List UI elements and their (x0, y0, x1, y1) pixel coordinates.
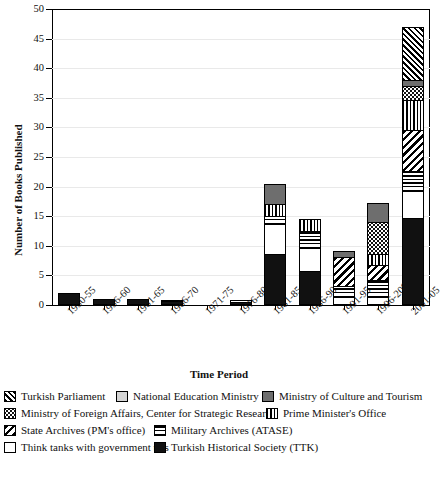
y-tick-label: 30 (18, 122, 44, 132)
y-tick-label: 5 (18, 270, 44, 280)
legend-label: Prime Minister's Office (283, 407, 386, 419)
bar-segment (403, 131, 423, 172)
legend-label: National Education Ministry (133, 390, 259, 402)
y-tick-label: 45 (18, 34, 44, 44)
bar-segment (265, 217, 285, 226)
legend-item[interactable]: Prime Minister's Office (266, 407, 386, 419)
legend-item[interactable]: Turkish Historical Society (TTK) (154, 441, 318, 453)
bar-segment (300, 232, 320, 249)
legend-swatch-icon (262, 391, 274, 402)
legend-item[interactable]: Think tanks with government ties (4, 441, 169, 453)
y-tick-label: 35 (18, 93, 44, 103)
bar-segment (368, 204, 388, 223)
bar-segment (403, 101, 423, 130)
bar-segment (300, 249, 320, 272)
legend-swatch-icon (266, 408, 278, 419)
legend-label: Ministry of Culture and Tourism (279, 390, 422, 402)
legend-swatch-icon (4, 391, 16, 402)
y-tick-label: 20 (18, 182, 44, 192)
y-tick-mark (46, 305, 52, 306)
legend-swatch-icon (154, 425, 166, 436)
bar-segment (368, 266, 388, 281)
legend-swatch-icon (116, 391, 128, 402)
legend-swatch-icon (4, 408, 16, 419)
y-tick-label: 10 (18, 241, 44, 251)
y-tick-label: 40 (18, 63, 44, 73)
legend-swatch-icon (154, 442, 166, 453)
legend-item[interactable]: Military Archives (ATASE) (154, 424, 292, 436)
bar-segment (368, 223, 388, 255)
legend-item[interactable]: Ministry of Foreign Affairs, Center for … (4, 407, 276, 419)
bar-segment (265, 185, 285, 205)
bar-segment (403, 172, 423, 193)
bar-1981-85[interactable] (264, 184, 286, 305)
x-axis-title: Time Period (0, 368, 438, 380)
legend-label: Turkish Historical Society (TTK) (171, 441, 318, 453)
bar-segment (403, 192, 423, 218)
legend-label: Military Archives (ATASE) (171, 424, 292, 436)
legend-item[interactable]: Turkish Parliament (4, 390, 105, 402)
legend-label: Ministry of Foreign Affairs, Center for … (21, 407, 276, 419)
legend-label: Think tanks with government ties (21, 441, 169, 453)
bar-segment (334, 258, 354, 287)
legend-label: Turkish Parliament (21, 390, 105, 402)
y-tick-label: 25 (18, 152, 44, 162)
bar-segment (300, 220, 320, 232)
legend-swatch-icon (4, 425, 16, 436)
bar-2001-05[interactable] (402, 27, 424, 305)
legend-item[interactable]: State Archives (PM's office) (4, 424, 145, 436)
y-tick-label: 15 (18, 211, 44, 221)
y-axis-title-wrap: Number of Books Published (0, 60, 14, 260)
bar-segment (403, 87, 423, 102)
bar-segment (403, 28, 423, 81)
legend-item[interactable]: National Education Ministry (116, 390, 259, 402)
bar-segment (265, 225, 285, 254)
legend-label: State Archives (PM's office) (21, 424, 145, 436)
legend-item[interactable]: Ministry of Culture and Tourism (262, 390, 422, 402)
y-tick-label: 50 (18, 4, 44, 14)
bar-segment (334, 252, 354, 259)
plot-area (52, 9, 430, 305)
y-tick-label: 0 (18, 300, 44, 310)
bar-segment (265, 205, 285, 217)
bar-segment (368, 255, 388, 267)
legend-swatch-icon (4, 442, 16, 453)
